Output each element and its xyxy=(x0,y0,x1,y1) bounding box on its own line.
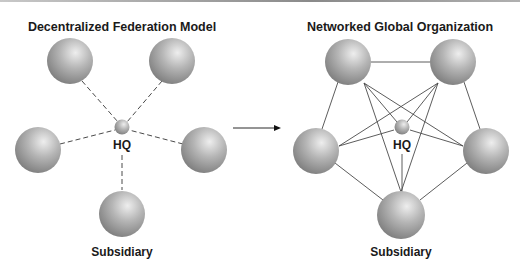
right-subsidiary-label: Subsidiary xyxy=(370,245,432,259)
left-connections xyxy=(60,81,183,190)
left-subsidiary-bottom xyxy=(99,191,145,237)
left-subsidiary-top-left xyxy=(47,38,93,84)
right-hq-label: HQ xyxy=(393,138,411,152)
right-title: Networked Global Organization xyxy=(307,20,493,34)
transition-arrow xyxy=(233,125,281,131)
left-subsidiary-top-right xyxy=(149,38,195,84)
right-subsidiary-bottom xyxy=(377,191,425,239)
left-title: Decentralized Federation Model xyxy=(28,20,216,34)
diagram-canvas: Decentralized Federation Model HQ Subsid… xyxy=(0,0,520,270)
left-hq-node xyxy=(115,120,130,135)
left-subsidiary-left xyxy=(15,127,61,173)
right-hq-node xyxy=(395,120,410,135)
right-subsidiary-right xyxy=(463,128,509,174)
right-subsidiary-left xyxy=(293,128,339,174)
left-hq-label: HQ xyxy=(113,138,131,152)
right-subsidiary-top-right xyxy=(430,39,476,85)
left-subsidiary-label: Subsidiary xyxy=(91,245,153,259)
left-subsidiary-right xyxy=(181,127,227,173)
right-subsidiary-top-left xyxy=(325,39,371,85)
